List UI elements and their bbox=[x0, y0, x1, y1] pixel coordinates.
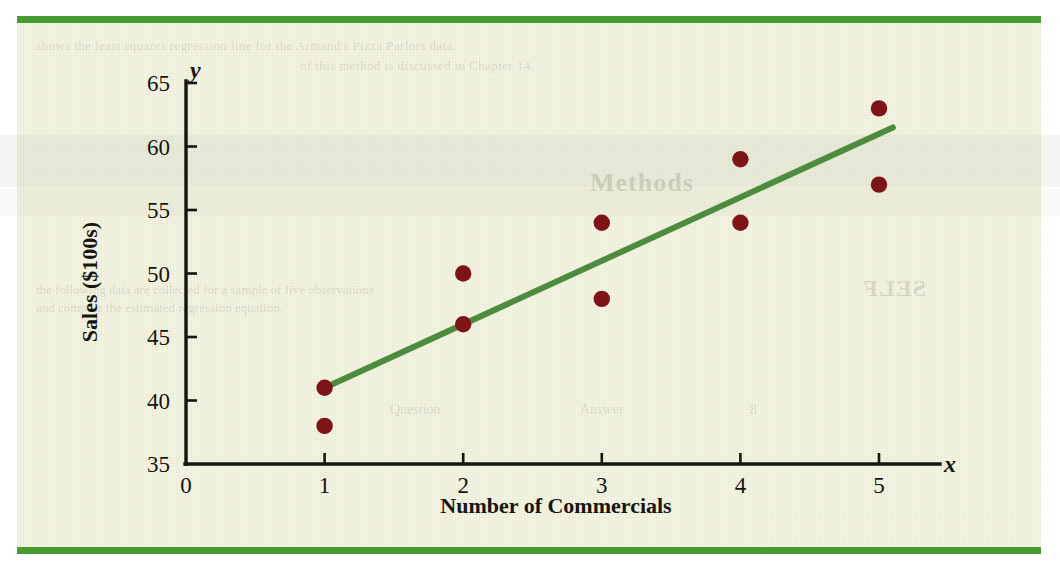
data-point bbox=[732, 151, 748, 167]
x-axis-title: Number of Commercials bbox=[440, 493, 672, 518]
x-tick-label: 5 bbox=[873, 473, 885, 498]
data-point bbox=[316, 380, 332, 396]
data-point bbox=[455, 265, 471, 281]
data-point bbox=[871, 100, 887, 116]
data-point bbox=[316, 418, 332, 434]
figure-root: shows the least squares regression line … bbox=[0, 0, 1060, 571]
y-tick-labels: 35404550556065 bbox=[147, 71, 170, 477]
y-tick-label: 45 bbox=[147, 325, 170, 350]
y-tick-label: 50 bbox=[147, 262, 170, 287]
data-point bbox=[455, 316, 471, 332]
y-tick-label: 55 bbox=[147, 198, 170, 223]
axes bbox=[185, 81, 940, 464]
regression-line bbox=[325, 127, 893, 387]
chart-canvas: 35404550556065 012345 y x Number of Comm… bbox=[0, 0, 1060, 571]
x-tick-label: 1 bbox=[319, 473, 331, 498]
scatter-plot: 35404550556065 012345 y x Number of Comm… bbox=[0, 0, 1024, 538]
y-axis-title: Sales ($100s) bbox=[77, 222, 102, 342]
y-tick-label: 40 bbox=[147, 389, 170, 414]
data-point bbox=[732, 215, 748, 231]
data-points bbox=[316, 100, 887, 434]
data-point bbox=[871, 176, 887, 192]
y-axis-variable-label: y bbox=[187, 57, 201, 83]
x-tick-label: 4 bbox=[735, 473, 747, 498]
x-axis-variable-label: x bbox=[943, 451, 956, 477]
y-tick-label: 35 bbox=[147, 452, 170, 477]
y-tick-label: 60 bbox=[147, 135, 170, 160]
x-tick-label: 0 bbox=[180, 473, 192, 498]
y-tick-label: 65 bbox=[147, 71, 170, 96]
axis-ticks bbox=[186, 83, 879, 464]
data-point bbox=[594, 215, 610, 231]
data-point bbox=[594, 291, 610, 307]
